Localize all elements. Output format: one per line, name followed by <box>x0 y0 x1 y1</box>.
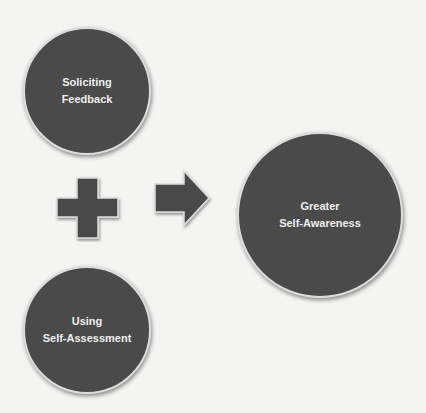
node-label-line1: Greater <box>300 198 339 215</box>
right-arrow-icon <box>152 168 214 230</box>
node-label-line2: Self-Assessment <box>43 330 132 347</box>
node-greater-self-awareness: Greater Self-Awareness <box>237 132 403 298</box>
node-using-self-assessment: Using Self-Assessment <box>23 266 151 394</box>
node-label-line1: Using <box>72 313 103 330</box>
node-label-line1: Soliciting <box>62 74 112 91</box>
node-label-line2: Feedback <box>62 91 113 108</box>
node-label-line2: Self-Awareness <box>279 215 361 232</box>
diagram-canvas: Soliciting Feedback Using Self-Assessmen… <box>0 0 426 413</box>
node-soliciting-feedback: Soliciting Feedback <box>23 27 151 155</box>
plus-icon <box>55 176 123 242</box>
